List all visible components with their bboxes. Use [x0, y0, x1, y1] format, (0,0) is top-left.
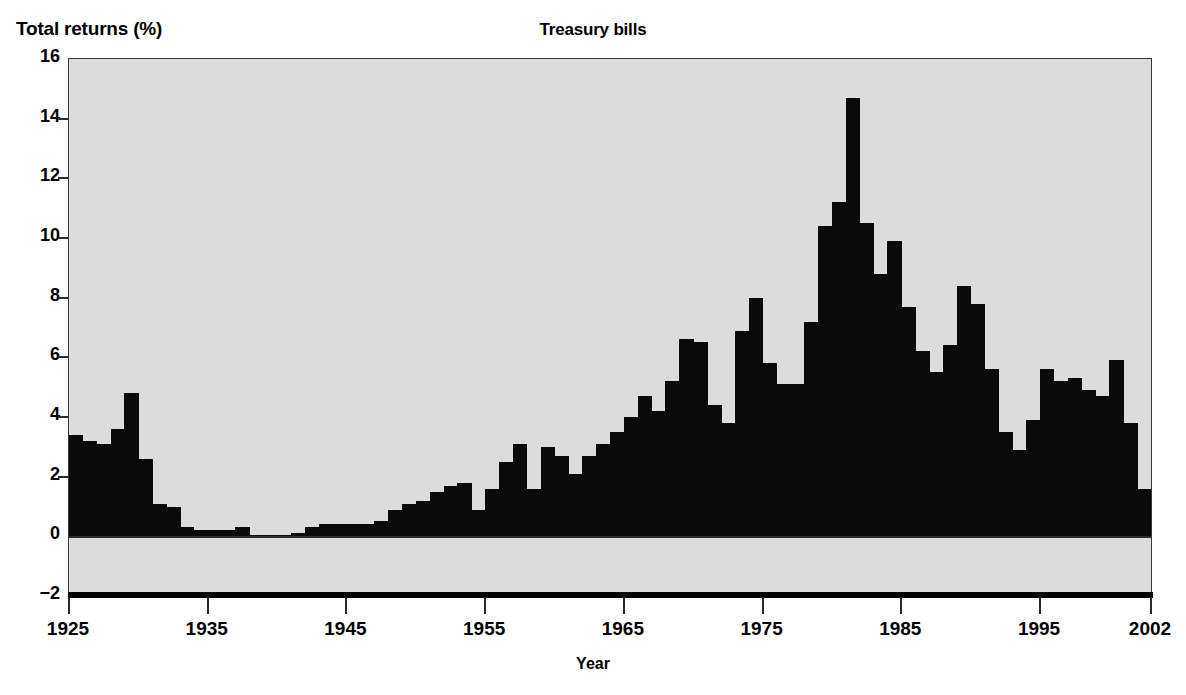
bar [555, 456, 569, 537]
x-tick-label: 1955 [463, 618, 505, 640]
bar [388, 510, 402, 537]
x-tick-mark [1039, 597, 1041, 614]
bar [263, 535, 277, 536]
bar [818, 226, 832, 536]
y-tick-label: 14 [10, 106, 60, 127]
bar [111, 429, 125, 536]
bar [430, 492, 444, 537]
bar [693, 342, 707, 536]
bar [222, 530, 236, 536]
bar [166, 507, 180, 537]
bar [346, 524, 360, 536]
bar [485, 489, 499, 537]
bar [235, 527, 249, 536]
x-tick-label: 1935 [186, 618, 228, 640]
bar [721, 423, 735, 536]
bar [1012, 450, 1026, 537]
y-tick-label: 16 [10, 46, 60, 67]
x-tick-mark [1150, 597, 1152, 614]
bar [749, 298, 763, 537]
bar [596, 444, 610, 536]
bar [1054, 381, 1068, 536]
bar [804, 322, 818, 537]
bar [568, 474, 582, 537]
y-tick-label: 8 [10, 285, 60, 306]
x-tick-mark [900, 597, 902, 614]
x-tick-label: 1965 [602, 618, 644, 640]
bar [471, 510, 485, 537]
bar [138, 459, 152, 537]
bar [832, 202, 846, 536]
bar [790, 384, 804, 536]
x-tick-mark [623, 597, 625, 614]
x-tick-mark [762, 597, 764, 614]
bar [374, 521, 388, 536]
bar [541, 447, 555, 537]
x-tick-label: 1945 [324, 618, 366, 640]
y-tick-label: 2 [10, 464, 60, 485]
bar [83, 441, 97, 536]
bar [305, 527, 319, 536]
x-axis-label: Year [0, 655, 1186, 673]
bar [124, 393, 138, 536]
y-tick-label: 0 [10, 523, 60, 544]
x-tick-label: 1995 [1018, 618, 1060, 640]
bar [860, 223, 874, 536]
bar [971, 304, 985, 537]
bar [915, 351, 929, 536]
bar [208, 530, 222, 536]
bar [360, 524, 374, 536]
y-tick-label: 12 [10, 165, 60, 186]
x-tick-label: 1985 [879, 618, 921, 640]
bar-series [69, 59, 1151, 596]
bar [929, 372, 943, 536]
bar [444, 486, 458, 537]
bar [582, 456, 596, 537]
bar [527, 489, 541, 537]
bar [457, 483, 471, 537]
bar [1068, 378, 1082, 536]
bar [1137, 489, 1151, 537]
bar [1123, 423, 1137, 536]
bar [416, 501, 430, 537]
bar [998, 432, 1012, 536]
x-tick-label: 2002 [1129, 618, 1171, 640]
bar [152, 504, 166, 537]
bar [610, 432, 624, 536]
y-tick-label: 10 [10, 225, 60, 246]
y-tick-label: −2 [10, 583, 60, 604]
bar [985, 369, 999, 536]
y-tick-label: 6 [10, 344, 60, 365]
x-tick-mark [207, 597, 209, 614]
y-axis-label: Total returns (%) [16, 18, 162, 40]
bar [194, 530, 208, 536]
bar [291, 533, 305, 536]
bar [333, 524, 347, 536]
x-tick-label: 1975 [740, 618, 782, 640]
bar [1026, 420, 1040, 536]
bar [499, 462, 513, 537]
plot-area [68, 58, 1152, 597]
bar [1082, 390, 1096, 536]
bar [319, 524, 333, 536]
bar [1096, 396, 1110, 536]
bar [249, 535, 263, 536]
bar [665, 381, 679, 536]
bar [624, 417, 638, 536]
x-tick-mark [484, 597, 486, 614]
bar [957, 286, 971, 537]
bar [707, 405, 721, 536]
bar [638, 396, 652, 536]
bar [1040, 369, 1054, 536]
x-tick-label: 1925 [47, 618, 89, 640]
bar [679, 339, 693, 536]
bar [402, 504, 416, 537]
bar [652, 411, 666, 536]
y-tick-label: 4 [10, 404, 60, 425]
bar [887, 241, 901, 536]
chart-figure: Total returns (%) Treasury bills 1614121… [0, 0, 1186, 695]
bar [1109, 360, 1123, 536]
bar [776, 384, 790, 536]
bar [901, 307, 915, 537]
bar [735, 331, 749, 537]
